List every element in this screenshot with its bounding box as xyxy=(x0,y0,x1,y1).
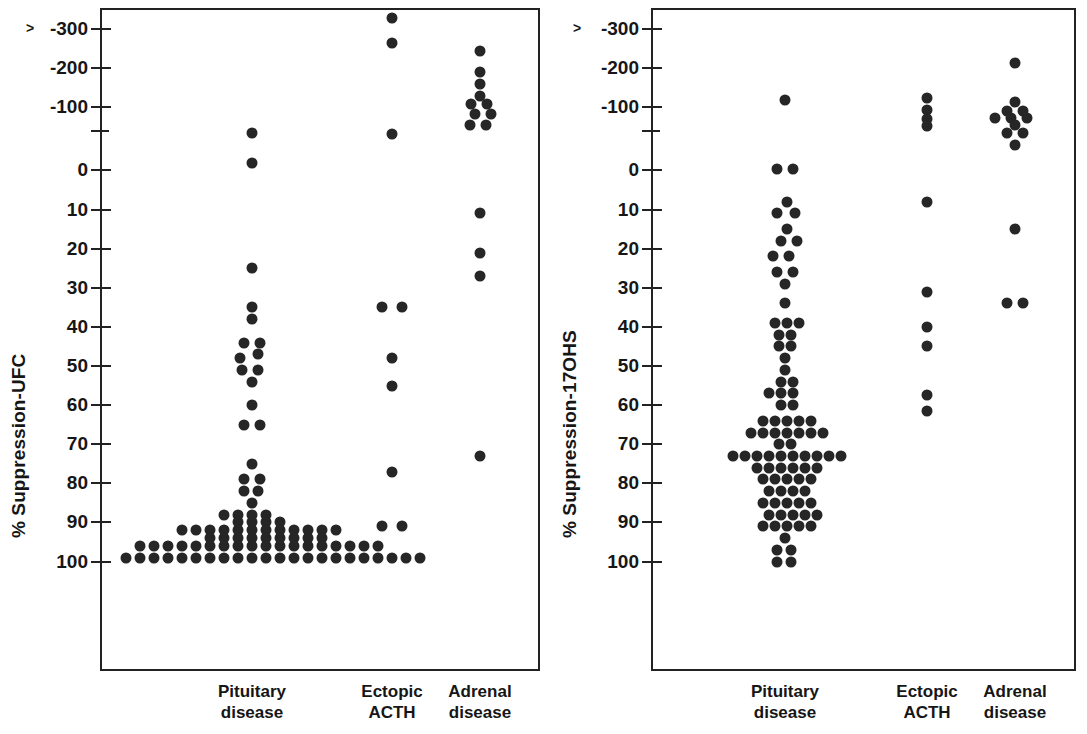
data-point xyxy=(776,450,787,461)
data-point xyxy=(275,552,286,563)
data-point xyxy=(782,521,793,532)
y-axis-tick-label: 60 xyxy=(545,394,639,416)
data-point xyxy=(922,390,933,401)
data-point xyxy=(415,552,426,563)
data-point xyxy=(764,486,775,497)
y-axis-tick xyxy=(91,209,111,211)
data-point xyxy=(772,556,783,567)
data-point xyxy=(772,544,783,555)
data-point xyxy=(782,427,793,438)
data-point xyxy=(780,533,791,544)
data-point xyxy=(812,462,823,473)
data-point xyxy=(255,474,266,485)
data-point xyxy=(772,208,783,219)
y-axis-tick xyxy=(642,365,662,367)
data-point xyxy=(1010,224,1021,235)
data-point xyxy=(800,462,811,473)
data-point xyxy=(1018,298,1029,309)
data-point xyxy=(475,66,486,77)
y-axis-tick-label: -100 xyxy=(0,96,88,118)
data-point xyxy=(764,450,775,461)
data-point xyxy=(247,376,258,387)
data-point xyxy=(261,552,272,563)
category-label-line2: disease xyxy=(715,702,855,723)
data-point xyxy=(275,540,286,551)
y-axis-tick-label: 30 xyxy=(0,277,88,299)
data-point xyxy=(247,400,258,411)
data-point xyxy=(163,540,174,551)
y-axis-tick xyxy=(91,287,111,289)
data-point xyxy=(237,364,248,375)
data-point xyxy=(782,196,793,207)
data-point xyxy=(786,329,797,340)
data-point xyxy=(377,521,388,532)
data-point xyxy=(345,540,356,551)
y-axis-tick xyxy=(91,404,111,406)
category-label-line1: Adrenal xyxy=(410,681,550,702)
y-axis-tick xyxy=(91,521,111,523)
y-axis-tick xyxy=(642,561,662,563)
data-point xyxy=(470,109,481,120)
x-axis-category-label-pituitary: Pituitarydisease xyxy=(715,681,855,723)
data-point xyxy=(303,552,314,563)
plot-frame xyxy=(651,8,1076,671)
y-axis-tick-label: 100 xyxy=(545,551,639,573)
y-axis-tick xyxy=(91,326,111,328)
data-point xyxy=(247,552,258,563)
data-point xyxy=(1002,298,1013,309)
data-point xyxy=(247,497,258,508)
data-point xyxy=(922,286,933,297)
y-axis-tick-label: 60 xyxy=(0,394,88,416)
data-point xyxy=(191,552,202,563)
data-point xyxy=(758,474,769,485)
y-axis-tick xyxy=(642,404,662,406)
data-point xyxy=(788,486,799,497)
data-point xyxy=(788,376,799,387)
y-axis-tick-label: -100 xyxy=(545,96,639,118)
y-axis-tick xyxy=(642,248,662,250)
data-point xyxy=(800,450,811,461)
data-point xyxy=(746,427,757,438)
data-point xyxy=(788,509,799,520)
data-point xyxy=(794,521,805,532)
data-point xyxy=(387,552,398,563)
data-point xyxy=(786,544,797,555)
greater-than-marker: > xyxy=(573,20,581,36)
data-point xyxy=(163,552,174,563)
data-point xyxy=(253,349,264,360)
data-point xyxy=(233,540,244,551)
data-point xyxy=(776,509,787,520)
data-point xyxy=(768,251,779,262)
data-point xyxy=(782,415,793,426)
data-point xyxy=(740,450,751,461)
data-point xyxy=(233,552,244,563)
data-point xyxy=(1010,58,1021,69)
data-point xyxy=(770,317,781,328)
data-point xyxy=(780,353,791,364)
category-label-line2: disease xyxy=(945,702,1085,723)
data-point xyxy=(780,278,791,289)
data-point xyxy=(205,540,216,551)
data-point xyxy=(776,376,787,387)
y-axis-tick xyxy=(642,443,662,445)
data-point xyxy=(780,364,791,375)
y-axis-tick xyxy=(642,521,662,523)
data-point xyxy=(331,525,342,536)
data-point xyxy=(776,486,787,497)
data-point xyxy=(387,128,398,139)
x-axis-category-label-adrenal: Adrenaldisease xyxy=(410,681,550,723)
data-point xyxy=(764,462,775,473)
data-point xyxy=(800,509,811,520)
data-point xyxy=(788,163,799,174)
data-point xyxy=(247,157,258,168)
data-point xyxy=(135,540,146,551)
data-point xyxy=(758,427,769,438)
data-point xyxy=(752,462,763,473)
y-axis-tick-label: 50 xyxy=(0,355,88,377)
y-axis-tick xyxy=(91,28,111,30)
data-point xyxy=(359,552,370,563)
y-axis-tick-label: 70 xyxy=(545,433,639,455)
data-point xyxy=(776,388,787,399)
y-axis-tick-label: 20 xyxy=(545,238,639,260)
data-point xyxy=(786,556,797,567)
